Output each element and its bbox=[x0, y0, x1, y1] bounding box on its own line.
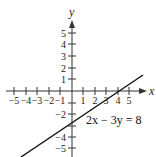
y-tick-label: 3 bbox=[61, 51, 66, 62]
x-tick-label: −3 bbox=[32, 95, 43, 106]
equation-label: 2x − 3y = 8 bbox=[86, 113, 142, 127]
y-tick-label: −2 bbox=[55, 109, 66, 120]
x-tick-label: 5 bbox=[127, 95, 132, 106]
x-tick-label: 4 bbox=[116, 95, 121, 106]
y-tick-label: −5 bbox=[55, 143, 66, 154]
y-tick-label: 4 bbox=[61, 39, 66, 50]
x-axis-arrow-icon bbox=[139, 88, 147, 94]
y-tick-label: 5 bbox=[61, 28, 66, 39]
coordinate-plane: −5 −4 −3 −2 −1 1 2 3 4 5 5 4 3 2 1 −2 −4… bbox=[0, 0, 156, 157]
x-tick-label: −1 bbox=[55, 95, 66, 106]
y-tick-label: 2 bbox=[61, 63, 66, 74]
x-tick-label: −2 bbox=[44, 95, 55, 106]
y-axis-label: y bbox=[68, 5, 75, 19]
x-tick-label: −4 bbox=[21, 95, 32, 106]
y-tick-label: 1 bbox=[61, 74, 66, 85]
y-axis-arrow-icon bbox=[69, 20, 75, 28]
x-tick-label: −5 bbox=[9, 95, 20, 106]
x-tick-label: 1 bbox=[81, 95, 86, 106]
x-tick-label: 2 bbox=[93, 95, 98, 106]
x-axis-label: x bbox=[148, 84, 155, 98]
